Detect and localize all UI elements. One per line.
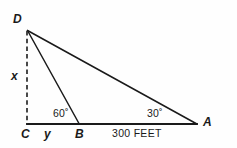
triangle-figure-svg [0,0,237,148]
vertex-label-D: D [13,13,22,25]
vertex-label-B: B [75,128,84,140]
angle-label-60-degrees-at-B: 60˚ [53,108,69,119]
distance-label-300-feet: 300 FEET [112,128,162,139]
base-segment-length-label-y: y [44,128,51,140]
geometry-diagram: D C B A x y 60˚ 30˚ 300 FEET [0,0,237,148]
angle-label-30-degrees-at-A: 30˚ [147,108,163,119]
vertex-label-A: A [203,116,212,128]
vertex-label-C: C [21,128,30,140]
altitude-length-label-x: x [11,70,18,82]
